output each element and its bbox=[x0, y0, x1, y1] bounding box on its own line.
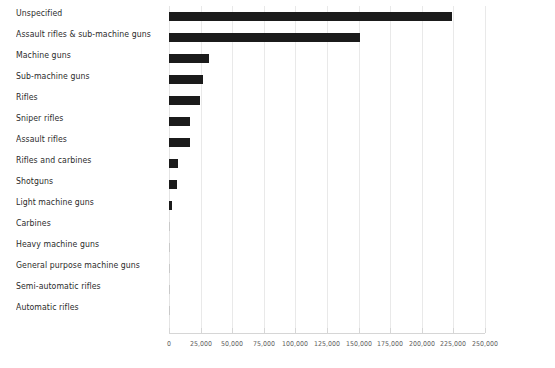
x-axis-tick-label: 200,000 bbox=[409, 340, 435, 348]
bar[interactable] bbox=[169, 54, 209, 63]
category-label: Semi-automatic rifles bbox=[16, 282, 147, 291]
gridline bbox=[422, 6, 423, 328]
category-label: Rifles bbox=[16, 93, 147, 102]
x-axis-tick bbox=[453, 328, 454, 333]
category-label: Carbines bbox=[16, 219, 147, 228]
bar[interactable] bbox=[169, 96, 200, 105]
category-label: Unspecified bbox=[16, 9, 147, 18]
category-label-column: UnspecifiedAssault rifles & sub-machine … bbox=[0, 0, 160, 330]
bar[interactable] bbox=[169, 264, 170, 273]
category-label: Shotguns bbox=[16, 177, 147, 186]
category-label: Light machine guns bbox=[16, 198, 147, 207]
x-axis-tick bbox=[327, 328, 328, 333]
bar[interactable] bbox=[169, 159, 178, 168]
category-label: Machine guns bbox=[16, 51, 147, 60]
x-axis-tick bbox=[201, 328, 202, 333]
horizontal-bar-chart: UnspecifiedAssault rifles & sub-machine … bbox=[0, 0, 555, 368]
bar[interactable] bbox=[169, 75, 203, 84]
gridline bbox=[485, 6, 486, 328]
x-axis-tick bbox=[295, 328, 296, 333]
category-label: Heavy machine guns bbox=[16, 240, 147, 249]
chart-page: UnspecifiedAssault rifles & sub-machine … bbox=[0, 0, 555, 368]
x-axis-tick-label: 250,000 bbox=[472, 340, 498, 348]
category-label: Assault rifles bbox=[16, 135, 147, 144]
x-axis-tick-label: 75,000 bbox=[253, 340, 275, 348]
gridline bbox=[453, 6, 454, 328]
x-axis-tick-label: 175,000 bbox=[377, 340, 403, 348]
bar[interactable] bbox=[169, 285, 170, 294]
x-axis-tick bbox=[232, 328, 233, 333]
bar[interactable] bbox=[169, 306, 170, 315]
x-axis-tick-label: 225,000 bbox=[440, 340, 466, 348]
x-axis-tick-label: 0 bbox=[167, 340, 171, 348]
x-axis-tick bbox=[485, 328, 486, 333]
bar[interactable] bbox=[169, 201, 172, 210]
bar[interactable] bbox=[169, 138, 190, 147]
x-axis-tick-label: 25,000 bbox=[190, 340, 212, 348]
bar[interactable] bbox=[169, 222, 170, 231]
x-axis-tick bbox=[169, 328, 170, 333]
x-axis-line bbox=[169, 333, 485, 334]
category-label: Sub-machine guns bbox=[16, 72, 147, 81]
x-axis-tick-label: 125,000 bbox=[314, 340, 340, 348]
x-axis-tick bbox=[390, 328, 391, 333]
x-axis-tick bbox=[264, 328, 265, 333]
bar[interactable] bbox=[169, 180, 177, 189]
gridline bbox=[390, 6, 391, 328]
bar[interactable] bbox=[169, 243, 170, 252]
x-axis-tick-label: 150,000 bbox=[346, 340, 372, 348]
x-axis-tick bbox=[422, 328, 423, 333]
bar[interactable] bbox=[169, 12, 452, 21]
category-label: Automatic rifles bbox=[16, 303, 147, 312]
gridline bbox=[327, 6, 328, 328]
gridline bbox=[264, 6, 265, 328]
gridline bbox=[232, 6, 233, 328]
x-axis-tick-label: 100,000 bbox=[282, 340, 308, 348]
plot-area bbox=[169, 6, 485, 328]
gridline bbox=[295, 6, 296, 328]
x-axis-tick-label: 50,000 bbox=[221, 340, 243, 348]
category-label: Assault rifles & sub-machine guns bbox=[16, 30, 147, 39]
bar[interactable] bbox=[169, 33, 360, 42]
category-label: Rifles and carbines bbox=[16, 156, 147, 165]
x-axis-tick bbox=[359, 328, 360, 333]
bar[interactable] bbox=[169, 117, 190, 126]
category-label: General purpose machine guns bbox=[16, 261, 147, 270]
gridline bbox=[359, 6, 360, 328]
category-label: Sniper rifles bbox=[16, 114, 147, 123]
